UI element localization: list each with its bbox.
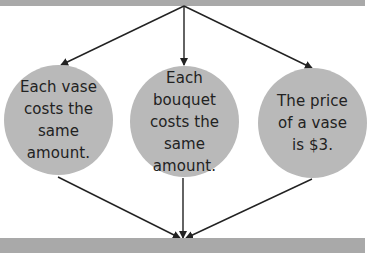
node-vase-price: The price of a vase is $3. <box>258 68 367 178</box>
node-vase-same: Each vase costs the same amount. <box>4 65 113 175</box>
node-label: Each vase costs the same amount. <box>4 76 113 164</box>
arrow-top-to-right <box>184 6 312 68</box>
node-label: Each bouquet costs the same amount. <box>130 67 239 177</box>
arrow-top-to-left <box>61 6 184 65</box>
bottom-bar <box>0 238 365 253</box>
node-label: The price of a vase is $3. <box>258 90 367 156</box>
arrow-right-to-bottom <box>186 179 312 238</box>
node-bouquet-same: Each bouquet costs the same amount. <box>130 66 239 177</box>
arrow-left-to-bottom <box>58 177 180 238</box>
